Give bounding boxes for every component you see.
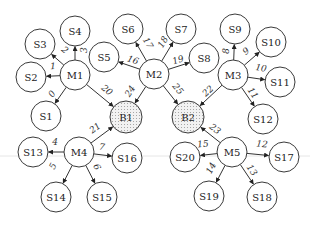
node-s15: S15 (87, 182, 117, 212)
node-s5: S5 (89, 42, 119, 72)
node-label: S12 (253, 114, 273, 125)
node-s7: S7 (166, 14, 196, 44)
arrow-line (247, 153, 269, 155)
edge-label: 24 (122, 83, 137, 99)
node-label: S9 (228, 24, 241, 35)
edge-m5-s17 (247, 153, 269, 155)
node-label: M3 (225, 70, 242, 81)
node-label: M1 (67, 70, 84, 81)
node-s14: S14 (41, 182, 71, 212)
node-s2: S2 (16, 62, 46, 92)
node-s1: S1 (31, 101, 61, 131)
node-s9: S9 (220, 14, 250, 44)
edge-label: 9 (241, 45, 252, 56)
edge-m1-s2 (47, 76, 61, 77)
node-label: S8 (197, 53, 210, 64)
arrow-line (248, 77, 265, 80)
node-label: S13 (23, 147, 43, 158)
node-m1: M1 (60, 60, 90, 90)
node-label: S10 (261, 37, 281, 48)
edge-label: 4 (51, 137, 58, 147)
node-label: S4 (68, 26, 81, 37)
edge-label: 21 (87, 121, 103, 136)
node-s6: S6 (113, 14, 143, 44)
edge-label: 10 (255, 62, 268, 74)
node-s11: S11 (265, 67, 295, 97)
node-m5: M5 (217, 137, 247, 167)
edge-m3-s9 (234, 45, 235, 61)
node-label: S2 (24, 72, 37, 83)
node-label: S1 (39, 111, 52, 122)
node-b1: B1 (110, 101, 142, 133)
edge-label: 20 (99, 82, 115, 98)
node-s13: S13 (18, 137, 48, 167)
arrow-line (63, 165, 72, 183)
node-label: S15 (92, 192, 112, 203)
node-s12: S12 (248, 104, 278, 134)
edge-label: 8 (221, 48, 231, 54)
node-s16: S16 (112, 143, 142, 173)
node-label: S19 (199, 191, 219, 202)
node-m4: M4 (64, 137, 94, 167)
arrow-line (200, 154, 217, 156)
edge-label: 16 (126, 53, 140, 66)
node-s18: S18 (247, 182, 277, 212)
edge-label: 5 (47, 161, 59, 171)
edge-m5-s19 (216, 165, 225, 182)
node-label: S18 (252, 192, 272, 203)
node-label: S20 (175, 152, 195, 163)
node-label: S17 (274, 152, 294, 163)
arrow-line (47, 76, 61, 77)
node-label: M5 (224, 147, 241, 158)
node-b2: B2 (172, 101, 204, 133)
node-label: S3 (33, 39, 46, 50)
edge-label: 14 (204, 160, 218, 175)
node-label: S5 (97, 52, 110, 63)
node-s20: S20 (170, 142, 200, 172)
edge-m5-s20 (200, 154, 217, 156)
node-s3: S3 (25, 29, 55, 59)
node-label: M4 (71, 147, 88, 158)
edge-label: 2 (59, 44, 71, 56)
node-label: S7 (174, 24, 187, 35)
node-s8: S8 (189, 43, 219, 73)
edge-m3-s11 (248, 77, 265, 80)
node-label: M2 (146, 69, 163, 80)
network-diagram: 0123456789101112131415161718192021222324… (0, 0, 310, 225)
edge-label: 6 (91, 162, 103, 172)
node-label: B1 (119, 112, 133, 123)
node-s10: S10 (256, 27, 286, 57)
edge-label: 15 (197, 138, 210, 149)
edge-label: 17 (141, 36, 156, 51)
edge-label: 22 (200, 83, 216, 99)
node-s19: S19 (194, 181, 224, 211)
node-label: S11 (270, 77, 290, 88)
edge-label: 7 (99, 142, 106, 153)
node-s4: S4 (60, 16, 90, 46)
edge-m4-s14 (63, 165, 72, 183)
node-label: S14 (46, 192, 66, 203)
node-m2: M2 (139, 59, 169, 89)
arrow-line (234, 45, 235, 61)
edge-label: 25 (170, 81, 186, 97)
edge-label: 13 (245, 162, 260, 177)
edge-label: 11 (246, 85, 261, 100)
node-label: S6 (121, 24, 134, 35)
node-label: B2 (181, 112, 195, 123)
edge-label: 0 (46, 89, 58, 100)
arrow-line (216, 165, 225, 182)
edge-label: 3 (79, 47, 89, 53)
edge-label: 12 (256, 138, 269, 149)
node-label: S16 (117, 153, 137, 164)
node-m3: M3 (218, 60, 248, 90)
edge-label: 1 (50, 61, 56, 71)
node-s17: S17 (269, 142, 299, 172)
